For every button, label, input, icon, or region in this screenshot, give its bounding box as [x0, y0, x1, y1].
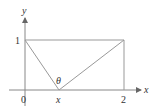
- diagram-canvas: y 1 0 x 2 x θ: [0, 0, 150, 110]
- y-tick-one-label: 1: [15, 35, 20, 46]
- right-diagonal-line: [59, 40, 124, 90]
- theta-angle-label: θ: [56, 75, 61, 86]
- x-point-label: x: [55, 94, 61, 105]
- y-axis-label: y: [21, 5, 27, 16]
- x-axis-label: x: [143, 84, 149, 95]
- x-tick-two-label: 2: [121, 94, 126, 105]
- left-diagonal-line: [25, 40, 59, 90]
- origin-label: 0: [21, 94, 26, 105]
